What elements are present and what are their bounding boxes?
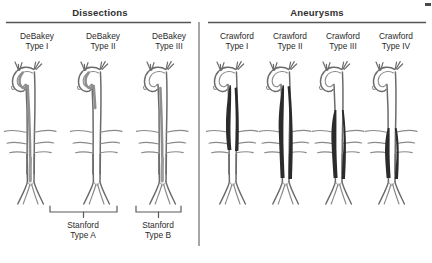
aorta-debakey-2 — [71, 62, 123, 204]
column-label-line1: Crawford — [379, 31, 413, 41]
bracket-label-line1: Stanford — [67, 220, 99, 230]
column-label-debakey-3: DeBakey Type III — [138, 31, 200, 51]
column-label-debakey-2: DeBakey Type II — [72, 31, 134, 51]
bracket-label-stanford-a: Stanford Type A — [46, 220, 120, 240]
column-label-line1: Crawford — [220, 31, 254, 41]
column-label-line1: DeBakey — [20, 31, 54, 41]
section-heading-aneurysms: Aneurysms — [277, 7, 357, 18]
column-label-line1: Crawford — [326, 31, 360, 41]
bracket-stanford-b — [136, 206, 181, 218]
column-label-line2: Type I — [226, 41, 249, 51]
column-label-line2: Type II — [277, 41, 302, 51]
column-label-crawford-4: Crawford Type IV — [365, 31, 427, 51]
column-label-debakey-1: DeBakey Type I — [6, 31, 68, 51]
aorta-crawford-2 — [260, 62, 312, 204]
aneurysm-extent-crawford-3 — [331, 110, 346, 179]
dissection-flap-descending — [160, 88, 162, 181]
column-label-line2: Type I — [26, 41, 49, 51]
section-heading-dissections: Dissections — [60, 7, 140, 18]
column-label-line1: Crawford — [273, 31, 307, 41]
dissection-flap-full — [19, 73, 30, 181]
bracket-stanford-a — [50, 206, 117, 218]
column-label-line2: Type II — [90, 41, 115, 51]
page-artifact-mark — [425, 3, 431, 6]
column-label-line1: DeBakey — [86, 31, 120, 41]
aorta-debakey-1 — [5, 62, 57, 204]
column-label-line2: Type III — [155, 41, 182, 51]
aneurysm-extent-crawford-4 — [385, 128, 399, 179]
column-label-line1: DeBakey — [152, 31, 186, 41]
bracket-label-line2: Type A — [70, 230, 96, 240]
aorta-crawford-1 — [207, 62, 259, 204]
bracket-label-line2: Type B — [145, 230, 171, 240]
aorta-debakey-3 — [137, 62, 189, 204]
aorta-crawford-4 — [366, 62, 418, 204]
bracket-label-stanford-b: Stanford Type B — [121, 220, 195, 240]
aorta-crawford-3 — [313, 62, 365, 204]
aneurysm-extent-crawford-2 — [279, 85, 293, 179]
column-label-line2: Type III — [329, 41, 356, 51]
bracket-label-line1: Stanford — [142, 220, 174, 230]
column-label-line2: Type IV — [382, 41, 410, 51]
